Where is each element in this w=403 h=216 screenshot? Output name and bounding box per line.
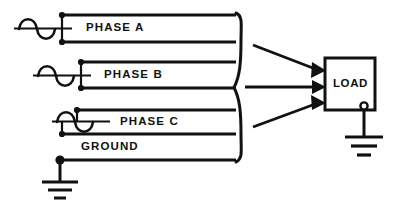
ground-conductor-group — [42, 155, 236, 198]
feeder-lines-group — [245, 45, 326, 127]
label-ground: GROUND — [81, 141, 139, 153]
phase-b-node-bottom — [78, 85, 84, 91]
brace-curve — [234, 13, 241, 162]
diagram-canvas — [0, 0, 403, 216]
feeder-line-bottom — [253, 103, 318, 127]
load-ground-terminal-circle — [360, 102, 367, 109]
phase-a-node-bottom — [59, 39, 65, 45]
phase-c-node-top — [74, 107, 80, 113]
phase-a-generator-symbol — [14, 19, 72, 39]
phase-b-generator-symbol — [33, 66, 91, 86]
label-phase-b: PHASE B — [104, 69, 163, 81]
label-phase-a: PHASE A — [86, 22, 144, 34]
phase-c-generator-symbol — [52, 112, 110, 132]
phase-a-node-top — [59, 12, 65, 18]
three-phase-diagram: PHASE A PHASE B PHASE C GROUND LOAD — [0, 0, 403, 216]
label-phase-c: PHASE C — [120, 116, 179, 128]
gathering-brace — [234, 13, 241, 162]
phase-c-node-bottom — [59, 131, 65, 137]
label-load: LOAD — [333, 78, 368, 90]
feeder-line-top — [253, 45, 318, 70]
phase-b-node-top — [78, 59, 84, 65]
